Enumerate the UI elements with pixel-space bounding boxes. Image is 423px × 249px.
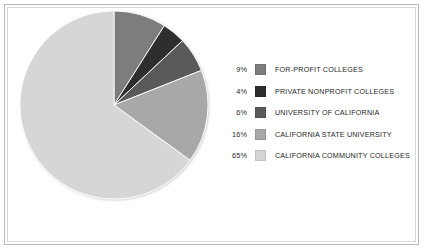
legend-item-private-nonprofit-colleges[interactable]: 4% PRIVATE NONPROFIT COLLEGES (221, 81, 411, 103)
legend-label: UNIVERSITY OF CALIFORNIA (275, 108, 379, 117)
legend-percent: 6% (221, 108, 247, 117)
legend-color-swatch-icon (255, 107, 266, 118)
pie-slice-group (20, 11, 208, 199)
legend-color-swatch-icon (255, 86, 266, 97)
pie-svg (19, 10, 211, 202)
pie-chart-figure: 9% FOR-PROFIT COLLEGES 4% PRIVATE NONPRO… (9, 9, 414, 240)
legend-label: FOR-PROFIT COLLEGES (275, 65, 363, 74)
legend-color-swatch-icon (255, 64, 266, 75)
legend-color-swatch-icon (255, 150, 266, 161)
legend-percent: 65% (221, 151, 247, 160)
legend-item-university-of-california[interactable]: 6% UNIVERSITY OF CALIFORNIA (221, 102, 411, 124)
chart-legend: 9% FOR-PROFIT COLLEGES 4% PRIVATE NONPRO… (221, 59, 411, 167)
legend-label: CALIFORNIA COMMUNITY COLLEGES (275, 151, 410, 160)
legend-label: CALIFORNIA STATE UNIVERSITY (275, 130, 392, 139)
legend-percent: 16% (221, 130, 247, 139)
pie-chart-graphic (19, 10, 211, 202)
legend-percent: 4% (221, 87, 247, 96)
legend-item-for-profit-colleges[interactable]: 9% FOR-PROFIT COLLEGES (221, 59, 411, 81)
legend-label: PRIVATE NONPROFIT COLLEGES (275, 87, 394, 96)
legend-percent: 9% (221, 65, 247, 74)
legend-color-swatch-icon (255, 129, 266, 140)
legend-item-california-state-university[interactable]: 16% CALIFORNIA STATE UNIVERSITY (221, 124, 411, 146)
chart-page: 9% FOR-PROFIT COLLEGES 4% PRIVATE NONPRO… (0, 0, 423, 249)
legend-item-california-community-colleges[interactable]: 65% CALIFORNIA COMMUNITY COLLEGES (221, 145, 411, 167)
